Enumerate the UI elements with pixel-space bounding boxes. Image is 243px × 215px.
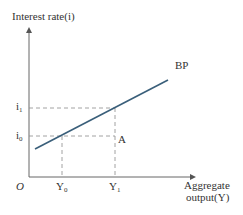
bp-curve-diagram: Interest rate(i) BP A O i1 i0 Y0 Y1 Aggr… bbox=[0, 0, 243, 215]
curve-label: BP bbox=[175, 59, 188, 71]
y-axis-label: Interest rate(i) bbox=[12, 10, 75, 23]
x-tick-y0: Y0 bbox=[56, 180, 68, 194]
y-tick-i0: i0 bbox=[16, 129, 23, 143]
y-tick-i1: i1 bbox=[16, 100, 23, 114]
x-tick-y1: Y1 bbox=[109, 180, 121, 194]
x-axis-label-line1: Aggregate bbox=[184, 179, 230, 191]
x-axis-label-line2: output(Y) bbox=[186, 191, 230, 204]
point-label: A bbox=[118, 133, 126, 145]
guide-lines bbox=[29, 108, 115, 177]
origin-label: O bbox=[16, 180, 24, 192]
bp-curve bbox=[35, 80, 168, 149]
